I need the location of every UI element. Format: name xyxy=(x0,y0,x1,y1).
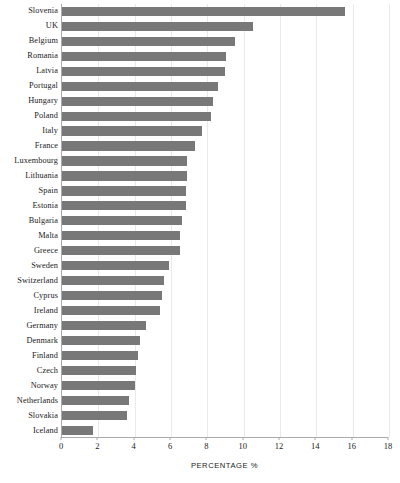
category-label-netherlands: Netherlands xyxy=(0,396,58,405)
x-tick-label-18: 18 xyxy=(384,440,393,452)
bar-ireland xyxy=(62,306,160,315)
bar-cyprus xyxy=(62,291,162,300)
bar-row xyxy=(62,4,388,19)
bar-row xyxy=(62,228,388,243)
bar-row xyxy=(62,34,388,49)
x-axis-title: PERCENTAGE % xyxy=(61,461,388,470)
x-tick-label-14: 14 xyxy=(311,440,320,452)
bar-chart: SloveniaUKBelgiumRomaniaLatviaPortugalHu… xyxy=(0,0,400,483)
category-label-malta: Malta xyxy=(0,231,58,240)
bar-germany xyxy=(62,321,146,330)
x-tick-label-2: 2 xyxy=(95,440,99,452)
category-label-poland: Poland xyxy=(0,111,58,120)
x-tick-label-8: 8 xyxy=(204,440,208,452)
bar-row xyxy=(62,79,388,94)
bar-luxembourg xyxy=(62,156,187,165)
category-label-hungary: Hungary xyxy=(0,96,58,105)
category-label-spain: Spain xyxy=(0,186,58,195)
category-label-italy: Italy xyxy=(0,126,58,135)
bar-greece xyxy=(62,246,180,255)
x-tick-label-10: 10 xyxy=(238,440,247,452)
bar-row xyxy=(62,348,388,363)
category-label-finland: Finland xyxy=(0,351,58,360)
bar-finland xyxy=(62,351,138,360)
bar-portugal xyxy=(62,82,218,91)
category-label-cyprus: Cyprus xyxy=(0,291,58,300)
bar-row xyxy=(62,408,388,423)
category-label-czech: Czech xyxy=(0,366,58,375)
bar-poland xyxy=(62,112,211,121)
category-label-bulgaria: Bulgaria xyxy=(0,216,58,225)
bar-uk xyxy=(62,22,253,31)
plot-area xyxy=(61,4,388,438)
bar-switzerland xyxy=(62,276,164,285)
category-label-uk: UK xyxy=(0,21,58,30)
category-label-iceland: Iceland xyxy=(0,426,58,435)
bar-row xyxy=(62,168,388,183)
category-label-sweden: Sweden xyxy=(0,261,58,270)
bar-row xyxy=(62,139,388,154)
bar-netherlands xyxy=(62,396,129,405)
category-label-ireland: Ireland xyxy=(0,306,58,315)
x-tick-label-6: 6 xyxy=(168,440,172,452)
category-label-germany: Germany xyxy=(0,321,58,330)
bar-bulgaria xyxy=(62,216,182,225)
bar-row xyxy=(62,64,388,79)
gridline xyxy=(389,4,390,437)
x-tick-label-4: 4 xyxy=(132,440,136,452)
bar-slovakia xyxy=(62,411,127,420)
bar-norway xyxy=(62,381,135,390)
bar-estonia xyxy=(62,201,186,210)
bar-row xyxy=(62,154,388,169)
category-label-switzerland: Switzerland xyxy=(0,276,58,285)
category-label-denmark: Denmark xyxy=(0,336,58,345)
bar-row xyxy=(62,363,388,378)
bar-romania xyxy=(62,52,226,61)
bar-iceland xyxy=(62,426,93,435)
category-label-luxembourg: Luxembourg xyxy=(0,156,58,165)
bar-row xyxy=(62,318,388,333)
category-label-norway: Norway xyxy=(0,381,58,390)
bar-row xyxy=(62,49,388,64)
bar-row xyxy=(62,109,388,124)
category-label-belgium: Belgium xyxy=(0,36,58,45)
category-label-estonia: Estonia xyxy=(0,201,58,210)
category-label-slovakia: Slovakia xyxy=(0,411,58,420)
category-label-latvia: Latvia xyxy=(0,66,58,75)
bar-row xyxy=(62,273,388,288)
bar-malta xyxy=(62,231,180,240)
bar-series xyxy=(62,4,388,437)
bar-row xyxy=(62,333,388,348)
bar-row xyxy=(62,198,388,213)
bar-row xyxy=(62,423,388,438)
bar-row xyxy=(62,378,388,393)
bar-sweden xyxy=(62,261,169,270)
bar-row xyxy=(62,19,388,34)
bar-france xyxy=(62,141,195,150)
bar-row xyxy=(62,288,388,303)
category-label-slovenia: Slovenia xyxy=(0,6,58,15)
bar-row xyxy=(62,183,388,198)
x-tick-label-12: 12 xyxy=(275,440,284,452)
bar-czech xyxy=(62,366,136,375)
bar-row xyxy=(62,124,388,139)
x-tick-label-0: 0 xyxy=(59,440,63,452)
category-label-lithuania: Lithuania xyxy=(0,171,58,180)
bar-lithuania xyxy=(62,171,187,180)
x-axis-ticks: 024681012141618 xyxy=(0,440,400,454)
category-label-portugal: Portugal xyxy=(0,81,58,90)
category-label-romania: Romania xyxy=(0,51,58,60)
x-tick-label-16: 16 xyxy=(347,440,356,452)
category-axis-labels: SloveniaUKBelgiumRomaniaLatviaPortugalHu… xyxy=(0,4,58,438)
bar-row xyxy=(62,393,388,408)
bar-row xyxy=(62,258,388,273)
bar-latvia xyxy=(62,67,225,76)
bar-denmark xyxy=(62,336,140,345)
category-label-france: France xyxy=(0,141,58,150)
bar-slovenia xyxy=(62,7,345,16)
bar-spain xyxy=(62,186,186,195)
bar-hungary xyxy=(62,97,213,106)
bar-row xyxy=(62,94,388,109)
bar-italy xyxy=(62,126,202,135)
category-label-greece: Greece xyxy=(0,246,58,255)
